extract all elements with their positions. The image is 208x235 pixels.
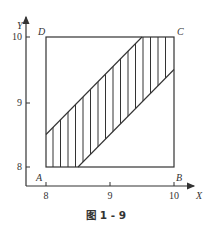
figure-caption: 图 1 - 9 (86, 209, 126, 221)
point-label-c: C (177, 26, 184, 37)
figure-canvas: 8 9 10 8 9 10 X Y A B C D 图 1 - 9 (0, 0, 208, 235)
lower-boundary-line (78, 70, 174, 168)
point-label-b: B (176, 172, 182, 183)
point-label-d: D (37, 26, 46, 37)
y-axis-label: Y (17, 20, 24, 31)
y-tick-label-8: 8 (17, 161, 22, 172)
y-tick-label-10: 10 (12, 31, 22, 42)
y-tick-label-9: 9 (17, 97, 22, 108)
x-tick-label-8: 8 (44, 190, 49, 201)
point-label-a: A (35, 172, 43, 183)
x-tick-label-10: 10 (169, 190, 179, 201)
x-tick-label-9: 9 (108, 190, 113, 201)
square-abcd (46, 37, 174, 167)
x-axis-label: X (195, 190, 203, 201)
hatched-region (53, 30, 166, 170)
